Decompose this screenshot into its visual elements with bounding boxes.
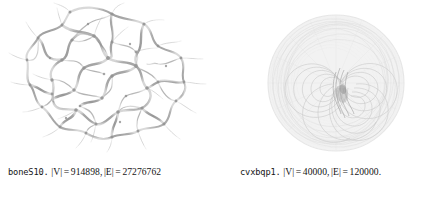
cvxbqp1-graph-visualization <box>228 0 445 160</box>
caption-bones10-vertices-equals: = <box>62 166 71 177</box>
caption-cvxbqp1-vertices-symbol: |V| <box>283 166 294 177</box>
caption-bones10-vertices-value: 914898 <box>71 166 100 177</box>
caption-cvxbqp1-trailing: . <box>379 166 381 177</box>
graph-panel-bones10 <box>0 0 228 160</box>
bones10-graph-visualization <box>0 0 228 160</box>
caption-cvxbqp1: cvxbqp1.|V|=40000,|E|=120000. <box>240 166 381 178</box>
caption-bones10-edges-symbol: |E| <box>104 166 114 177</box>
caption-cvxbqp1-vertices-equals: = <box>294 166 303 177</box>
caption-cvxbqp1-edges-equals: = <box>341 166 350 177</box>
caption-bones10-name: boneS10. <box>8 167 49 177</box>
caption-cvxbqp1-name: cvxbqp1. <box>240 167 281 177</box>
graph-panel-cvxbqp1 <box>228 0 445 160</box>
caption-cvxbqp1-vertices-value: 40000 <box>303 166 327 177</box>
caption-bones10-edges-value: 27276762 <box>122 166 161 177</box>
caption-bones10: boneS10.|V|=914898,|E|=27276762 <box>8 166 161 178</box>
caption-cvxbqp1-edges-symbol: |E| <box>331 166 341 177</box>
caption-cvxbqp1-edges-value: 120000 <box>350 166 379 177</box>
caption-bones10-vertices-symbol: |V| <box>51 166 62 177</box>
figure-root: boneS10.|V|=914898,|E|=27276762 cvxbqp1.… <box>0 0 445 202</box>
